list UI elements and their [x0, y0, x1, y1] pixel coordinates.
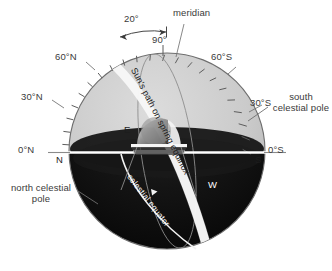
south-celestial-pole-label: south celestial pole [272, 92, 330, 113]
angle-20-label: 20° [124, 14, 139, 25]
dec-60s-leader [228, 67, 236, 74]
cardinal-w-label: W [208, 180, 217, 191]
cardinal-s-label: S [255, 155, 261, 166]
dec-30s-label: 30°S [250, 98, 271, 109]
angle-90-label: 90° [152, 35, 167, 46]
dec-30n-leader [52, 100, 64, 108]
north-celestial-pole-label: north celestial pole [8, 183, 74, 204]
dec-60s-label: 60°S [211, 52, 232, 63]
meridian-label: meridian [173, 8, 210, 19]
cardinal-n-label: N [56, 155, 63, 166]
dec-30n-label: 30°N [21, 92, 43, 103]
dec-60n-leader [86, 62, 95, 70]
dec-0n-label: 0°N [18, 145, 34, 156]
cardinal-e-label: E [124, 125, 130, 136]
diagram-canvas: 20° 90° meridian 60°N 30°N 0°N 60°S 30°S… [0, 0, 332, 271]
dec-60n-label: 60°N [55, 52, 77, 63]
dec-0s-label: 0°S [268, 145, 284, 156]
meridian-leader-line [176, 24, 184, 57]
